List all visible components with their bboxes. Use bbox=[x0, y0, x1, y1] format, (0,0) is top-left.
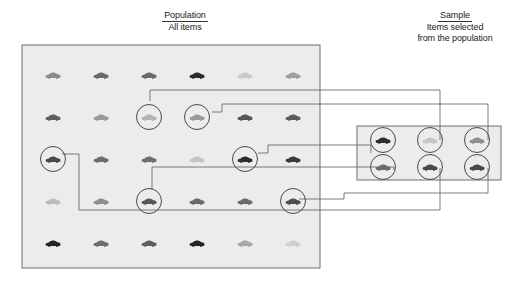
figure-canvas: Population All items Sample Items select… bbox=[0, 0, 528, 282]
sample-box bbox=[357, 126, 501, 180]
population-box bbox=[22, 45, 320, 268]
diagram-svg bbox=[0, 0, 528, 282]
boxes-group bbox=[22, 45, 501, 268]
